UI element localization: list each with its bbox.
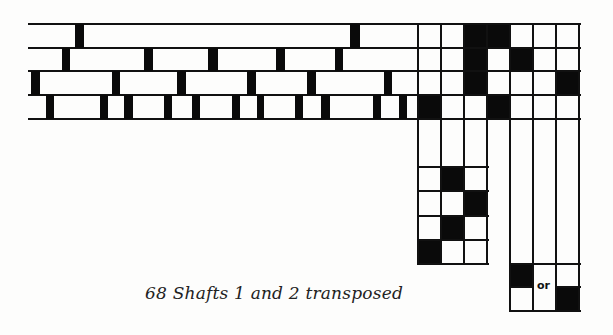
warp-float-mark xyxy=(144,48,153,71)
grid-line xyxy=(509,24,511,120)
grid-line xyxy=(510,286,534,288)
grid-line xyxy=(510,310,581,312)
grid-line xyxy=(418,239,489,241)
warp-float-mark xyxy=(46,95,54,119)
grid-line xyxy=(578,119,580,312)
warp-float-mark xyxy=(384,71,392,95)
grid-line xyxy=(510,263,581,265)
warp-float-mark xyxy=(295,95,303,119)
warp-float-mark xyxy=(75,24,84,48)
grid-line xyxy=(578,24,580,120)
filled-cell xyxy=(418,240,441,264)
warp-float-mark xyxy=(112,71,120,95)
grid-line xyxy=(417,119,419,265)
warp-float-mark xyxy=(208,48,218,71)
warp-float-mark xyxy=(62,48,70,71)
filled-cell xyxy=(510,48,533,71)
filled-cell xyxy=(510,264,533,287)
grid-line xyxy=(418,263,489,265)
warp-float-mark xyxy=(321,95,330,119)
filled-cell xyxy=(464,48,487,71)
grid-line xyxy=(440,24,442,120)
grid-line xyxy=(418,215,489,217)
figure-caption: 68 Shafts 1 and 2 transposed xyxy=(145,283,403,303)
fabric-row-line xyxy=(28,118,418,120)
grid-line xyxy=(555,119,557,312)
warp-float-mark xyxy=(164,95,172,119)
grid-line xyxy=(418,190,489,192)
grid-line xyxy=(418,166,489,168)
fabric-row-line xyxy=(28,70,418,72)
grid-line xyxy=(440,119,442,265)
filled-cell xyxy=(441,216,464,240)
warp-float-mark xyxy=(100,95,108,119)
warp-float-mark xyxy=(247,71,256,95)
grid-line xyxy=(463,119,465,265)
grid-line xyxy=(532,119,534,312)
filled-cell xyxy=(487,95,510,119)
filled-cell xyxy=(556,71,579,95)
filled-cell xyxy=(464,24,487,48)
warp-float-mark xyxy=(257,95,264,119)
warp-float-mark xyxy=(399,95,407,119)
warp-float-mark xyxy=(124,95,133,119)
warp-float-mark xyxy=(350,24,360,48)
filled-cell xyxy=(418,95,441,119)
filled-cell xyxy=(464,71,487,95)
grid-line xyxy=(555,24,557,120)
grid-line xyxy=(486,119,488,265)
warp-float-mark xyxy=(373,95,381,119)
weaving-draft-figure: or 68 Shafts 1 and 2 transposed xyxy=(0,0,613,335)
grid-line xyxy=(417,24,419,120)
filled-cell xyxy=(441,167,464,191)
warp-float-mark xyxy=(276,48,285,71)
warp-float-mark xyxy=(335,48,343,71)
filled-cell xyxy=(464,191,487,216)
grid-line xyxy=(486,24,488,120)
filled-cell xyxy=(556,287,579,311)
fabric-row-line xyxy=(28,94,418,96)
grid-line xyxy=(532,24,534,120)
or-label: or xyxy=(537,279,550,292)
grid-line xyxy=(509,119,511,312)
warp-float-mark xyxy=(232,95,240,119)
warp-float-mark xyxy=(192,95,200,119)
filled-cell xyxy=(487,24,510,48)
warp-float-mark xyxy=(31,71,40,95)
warp-float-mark xyxy=(177,71,186,95)
warp-float-mark xyxy=(307,71,316,95)
grid-line xyxy=(463,24,465,120)
